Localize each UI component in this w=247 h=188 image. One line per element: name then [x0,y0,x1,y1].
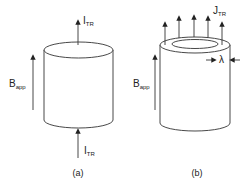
superconductor-cylinders-diagram: ITR ITR Bapp (a) JTR λ Bapp (b) [0,0,247,188]
caption-a: (a) [73,168,84,178]
solid-cylinder-a [44,42,113,128]
lambda-label: λ [219,54,224,65]
field-label-a: Bapp [9,78,26,90]
inner-bore [172,40,218,49]
hollow-cylinder-b [160,37,230,131]
current-label-top-a: ITR [83,15,94,27]
current-density-label-b: JTR [213,5,227,17]
caption-b: (b) [192,168,203,178]
field-label-b: Bapp [133,78,150,90]
current-label-bottom-a: ITR [84,145,95,157]
